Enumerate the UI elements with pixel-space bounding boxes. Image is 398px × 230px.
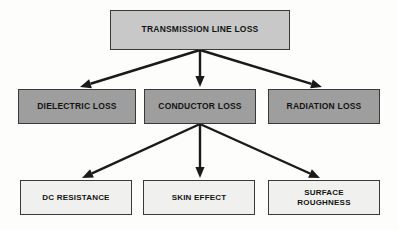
node-radiation-loss[interactable]: RADIATION LOSS [268,89,380,124]
node-skin-effect[interactable]: SKIN EFFECT [143,180,255,215]
arrowhead-icon [310,79,322,88]
node-label: RADIATION LOSS [287,102,362,112]
node-transmission-line-loss[interactable]: TRANSMISSION LINE LOSS [110,10,290,50]
edge-shaft [200,124,310,173]
node-dc-resistance[interactable]: DC RESISTANCE [20,180,132,215]
node-surface-roughness[interactable]: SURFACE ROUGHNESS [268,180,380,215]
edge-conductor-to-skin-effect [195,124,204,178]
edge-shaft [200,50,311,84]
node-label: TRANSMISSION LINE LOSS [142,25,259,35]
edge-root-to-radiation [200,50,322,88]
node-label: SKIN EFFECT [172,193,227,202]
edge-shaft [91,50,200,84]
arrowhead-icon [308,169,320,178]
node-label: CONDUCTOR LOSS [158,102,241,112]
edge-shaft [92,124,200,173]
flowchart-diagram: TRANSMISSION LINE LOSSDIELECTRIC LOSSCON… [0,0,398,230]
arrowhead-icon [195,167,204,178]
node-label: DC RESISTANCE [42,193,109,202]
arrowhead-icon [82,169,94,178]
edge-root-to-conductor [195,50,204,87]
node-dielectric-loss[interactable]: DIELECTRIC LOSS [18,89,136,124]
edge-root-to-dielectric [80,50,200,88]
arrowhead-icon [195,76,204,87]
node-conductor-loss[interactable]: CONDUCTOR LOSS [144,89,256,124]
edge-conductor-to-dc-resistance [82,124,200,178]
arrowhead-icon [80,79,92,88]
node-label: SURFACE ROUGHNESS [297,188,350,206]
node-label: DIELECTRIC LOSS [37,102,117,112]
edge-conductor-to-surface-roughness [200,124,320,178]
